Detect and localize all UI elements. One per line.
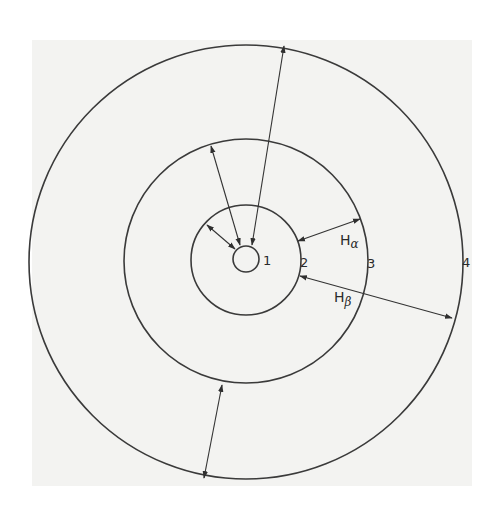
label-h-beta: Hβ — [334, 289, 352, 309]
circle-2 — [191, 205, 301, 315]
label-region-2: 2 — [300, 255, 308, 270]
circle-4-outer — [29, 45, 463, 479]
circle-1-core — [233, 246, 259, 272]
arrow-outer-to-core — [252, 46, 284, 245]
circle-3 — [124, 139, 368, 383]
arrow-h-beta — [300, 276, 452, 318]
label-region-1: 1 — [263, 253, 271, 268]
concentric-circles-diagram: 1 2 3 4 Hα Hβ — [0, 0, 494, 511]
label-region-3: 3 — [367, 256, 375, 271]
arrow-circle3-to-core — [211, 146, 240, 245]
label-region-4: 4 — [462, 255, 470, 270]
arrow-circle2-to-core — [207, 225, 235, 249]
label-h-alpha: Hα — [340, 232, 359, 251]
arrow-bottom — [204, 385, 222, 478]
